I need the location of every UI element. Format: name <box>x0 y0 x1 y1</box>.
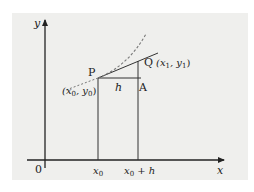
point-p-coords: (x0, y0) <box>62 85 97 98</box>
h-label: h <box>115 81 122 94</box>
function-curve-dashed <box>98 34 146 78</box>
tick-x0: x0 <box>93 165 103 178</box>
origin-label: 0 <box>35 163 42 176</box>
point-q-label: Q <box>144 56 153 69</box>
y-axis-label: y <box>33 17 41 30</box>
tick-x0-plus-h: x0 + h <box>124 165 155 178</box>
point-p-label: P <box>88 66 96 79</box>
point-a-label: A <box>138 81 148 94</box>
point-q-coords: (x1, y1) <box>156 57 191 70</box>
x-axis-label: x <box>217 164 224 177</box>
derivative-diagram: y x 0 P A Q h (x1, y1) (x0, y0) x0 x0 + … <box>0 0 254 192</box>
